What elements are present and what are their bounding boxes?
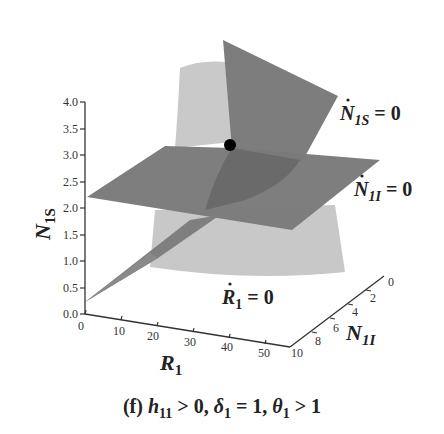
annotation-n1i-nullcline: N1I = 0 [353, 174, 412, 204]
z-tick-7: 3.5 [63, 122, 78, 136]
n1s-nullcline-surface [223, 40, 338, 162]
n1s-nullcline-lower-wedge-shadow [85, 253, 158, 302]
y-tick-5: 10 [291, 346, 303, 360]
figure-caption: (f) h11 > 0, δ1 = 1, θ1 > 1 [123, 395, 321, 421]
dot-accent [346, 98, 349, 101]
z-tick-8: 4.0 [63, 95, 78, 109]
y-tick-0: 0 [388, 275, 394, 289]
svg-text:N1I = 0: N1I = 0 [353, 178, 412, 204]
annotation-r1-nullcline: R1 = 0 [221, 282, 274, 312]
x-tick-0: 0 [78, 319, 84, 333]
dot-accent [228, 282, 231, 285]
x-tick-4: 40 [221, 340, 233, 354]
z-tick-4: 2.0 [63, 201, 78, 215]
x-tick-2: 20 [147, 329, 159, 343]
y-axis-title: N1I [345, 320, 376, 348]
x-tick-5: 50 [258, 346, 270, 360]
x-tick-3: 30 [184, 335, 196, 349]
r1-nullcline-surface-upper [175, 62, 232, 148]
y-axis: 0 2 4 6 8 10 N1I [290, 275, 394, 360]
x-tick-1: 10 [113, 324, 125, 338]
z-tick-6: 3.0 [63, 148, 78, 162]
z-tick-2: 1.0 [63, 254, 78, 268]
dot-accent [360, 174, 363, 177]
z-axis: 0.0 0.5 1.0 1.5 2.0 2.5 3.0 3.5 4.0 N1S [30, 95, 85, 321]
y-tick-4: 8 [315, 334, 321, 348]
x-axis-title: R1 [159, 350, 182, 378]
nullcline-3d-figure: 0.0 0.5 1.0 1.5 2.0 2.5 3.0 3.5 4.0 N1S … [0, 0, 444, 434]
z-tick-0: 0.0 [63, 307, 78, 321]
y-tick-3: 6 [333, 321, 339, 335]
z-tick-3: 1.5 [63, 228, 78, 242]
y-tick-2: 4 [352, 305, 358, 319]
x-axis: 0 10 20 30 40 50 R1 [78, 310, 290, 378]
equilibrium-point [224, 139, 236, 151]
y-tick-1: 2 [370, 291, 376, 305]
z-tick-5: 2.5 [63, 175, 78, 189]
annotation-n1s-nullcline: N1S = 0 [339, 98, 401, 128]
z-axis-title: N1S [30, 208, 58, 241]
svg-text:R1 = 0: R1 = 0 [221, 286, 274, 312]
svg-text:N1S = 0: N1S = 0 [339, 102, 401, 128]
z-tick-1: 0.5 [63, 281, 78, 295]
